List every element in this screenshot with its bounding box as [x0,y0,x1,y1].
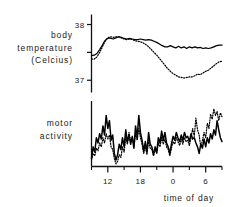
temperature-series-solid [92,37,223,56]
motor-axis-label: motoractivity [40,118,73,141]
temperature-y-tick-label: 38 [75,21,85,30]
x-axis-tick-label: 18 [136,177,146,186]
panel-body-temperature: 3837 [75,15,222,93]
panel-motor-activity [92,101,223,167]
motor-axis-label-line: activity [40,131,73,141]
temperature-axis-label: bodytemperature(Celcius) [17,30,73,65]
x-axis-tick-label: 0 [171,177,176,186]
temperature-axis-label-line: body [51,30,73,40]
x-axis: 121806 [92,167,223,186]
temperature-axis-label-line: temperature [17,43,73,53]
x-axis-label: time of day [164,193,214,203]
x-axis-tick-label: 6 [203,177,208,186]
chart-figure: 3837bodytemperature(Celcius)motoractivit… [0,0,235,207]
temperature-axis-label-line: (Celcius) [31,55,73,65]
x-axis-tick-label: 12 [103,177,113,186]
temperature-y-tick-label: 37 [75,76,85,85]
motor-axis-label-line: motor [47,118,73,128]
chart-svg: 3837bodytemperature(Celcius)motoractivit… [0,0,235,207]
